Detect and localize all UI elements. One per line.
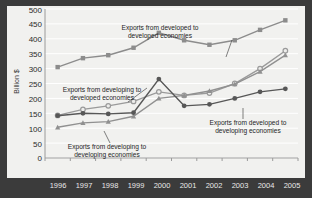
data-point [207, 43, 211, 47]
anno-developing-developed-line1: Exports from developing to [50, 86, 154, 94]
chart-screenshot: Billion $ 0 50 100 150 200 250 300 350 4… [0, 0, 312, 198]
data-point [258, 28, 262, 32]
data-point [106, 53, 110, 57]
data-point [258, 89, 263, 94]
anno-developing-developing-line2: developing economies [55, 151, 159, 159]
data-point [232, 96, 237, 101]
data-point [157, 90, 162, 95]
data-point [283, 86, 288, 91]
anno-developed-developed-line2: developed economies [108, 32, 212, 40]
data-point [106, 104, 111, 109]
data-point [81, 111, 86, 116]
anno-developed-developing: Exports from developed to developing eco… [196, 119, 300, 135]
data-point [131, 46, 135, 50]
anno-developed-developing-line2: developing economies [196, 127, 300, 135]
data-point [283, 48, 288, 53]
anno-developed-developing-line1: Exports from developed to [196, 119, 300, 127]
anno-developed-developed-line1: Exports from developed to [108, 24, 212, 32]
data-point [156, 77, 161, 82]
anno-developed-developed: Exports from developed to developed econ… [108, 24, 212, 40]
anno-developing-developing: Exports from developing to developing ec… [55, 143, 159, 159]
data-point [55, 113, 60, 118]
data-point [106, 111, 111, 116]
data-point [55, 65, 59, 69]
data-point [182, 103, 187, 108]
data-point [283, 18, 287, 22]
anno-developing-developing-line1: Exports from developing to [55, 143, 159, 151]
anno-developing-developed-line2: developed economies [50, 94, 154, 102]
data-point [131, 110, 136, 115]
data-point [233, 38, 237, 42]
data-point [207, 102, 212, 107]
anno-developing-developed: Exports from developing to developed eco… [50, 86, 154, 102]
data-point [81, 56, 85, 60]
